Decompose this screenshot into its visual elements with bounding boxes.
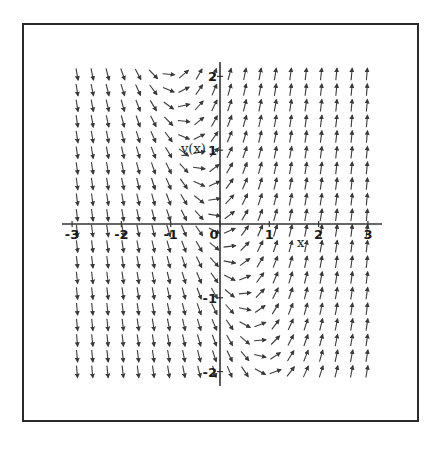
slope-arrow [211,132,218,142]
slope-arrow [320,131,322,143]
slope-arrow [335,303,337,315]
slope-arrow [336,131,337,143]
x-tick-label: 3 [363,227,372,242]
slope-arrow [228,68,231,80]
slope-arrow [122,194,124,206]
slope-arrow [320,288,323,300]
slope-arrow [92,256,93,268]
slope-arrow [320,241,322,253]
slope-arrow [289,209,292,221]
slope-arrow [366,162,367,174]
slope-arrow [336,147,337,159]
slope-arrow [320,178,322,190]
slope-arrow [196,241,202,251]
slope-arrow [271,336,280,345]
slope-arrow [289,272,293,283]
slope-arrow [257,257,263,267]
slope-arrow [76,272,77,284]
slope-arrow [136,100,140,111]
slope-arrow [76,84,78,96]
slope-arrow [304,350,308,361]
x-tick-label: 0 [209,227,218,242]
slope-arrow [351,115,352,127]
slope-arrow [107,272,109,284]
slope-arrow [270,370,281,374]
slope-arrow [92,334,93,346]
slope-arrow [257,241,262,252]
slope-arrow [259,131,262,143]
slope-arrow [351,287,353,299]
slope-arrow [254,355,266,358]
slope-arrow [351,319,353,331]
slope-arrow [274,194,277,206]
slope-arrow [212,84,217,95]
slope-arrow [259,100,261,112]
slope-arrow [255,369,266,375]
slope-arrow [137,209,140,221]
slope-arrow [227,147,232,158]
slope-arrow [239,275,250,280]
slope-arrow [320,194,322,206]
slope-arrow [197,319,200,331]
slope-arrow [91,100,93,112]
slope-arrow [210,243,219,251]
slope-arrow [335,287,337,299]
slope-arrow [121,84,125,96]
slope-arrow [351,68,352,80]
slope-arrow [366,147,367,159]
slope-arrow [181,210,186,221]
slope-arrow [303,366,308,377]
slope-arrow [106,131,108,143]
slope-arrow [224,228,235,233]
slope-arrow [137,366,139,378]
slope-arrow [305,147,307,159]
slope-arrow [320,272,322,284]
slope-arrow [304,303,307,315]
slope-arrow [228,116,232,127]
slope-arrow [107,334,108,346]
slope-arrow [366,366,368,378]
slope-arrow [183,334,186,346]
slope-arrow [121,69,125,80]
slope-arrow [227,163,233,173]
slope-arrow [92,303,93,315]
slope-arrow [122,350,123,362]
slope-arrow [106,147,108,159]
slope-arrow [290,147,292,159]
slope-arrow [77,303,78,315]
slope-arrow [240,336,249,344]
slope-arrow [167,209,171,220]
slope-arrow [152,303,154,315]
slope-arrow [107,256,109,268]
slope-arrow [290,84,292,96]
slope-arrow [151,162,155,173]
slope-arrow [167,288,170,300]
slope-arrow [137,350,139,362]
slope-arrow [152,350,154,362]
slope-arrow [351,162,352,174]
slope-arrow [137,162,140,174]
slope-arrow [183,319,186,331]
slope-arrow [136,84,141,95]
y-tick-label: 1 [208,143,217,158]
slope-arrow [258,225,263,236]
slope-arrow [167,272,170,284]
slope-arrow [274,131,276,143]
slope-arrow [273,288,279,299]
slope-arrow [92,225,94,237]
slope-arrow [319,366,323,377]
slope-arrow [197,303,201,314]
slope-arrow [226,179,233,189]
slope-arrow [182,256,186,267]
slope-arrow [224,261,236,263]
slope-arrow [180,164,188,173]
slope-arrow [91,68,94,80]
slope-arrow [76,194,78,206]
slope-arrow [305,241,307,253]
slope-arrow [122,303,124,315]
slope-arrow [305,68,306,80]
slope-arrow [242,194,247,205]
slope-arrow [198,350,201,362]
slope-arrow [305,100,307,112]
slope-arrow [336,68,337,80]
